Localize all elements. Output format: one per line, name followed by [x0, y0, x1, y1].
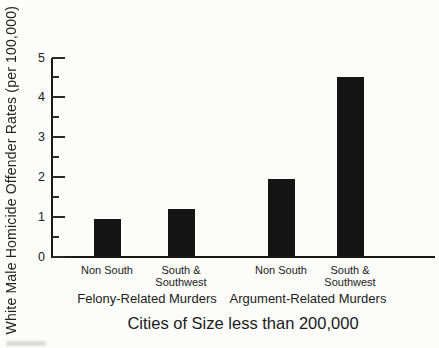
category-label: Non South [81, 264, 133, 276]
bar-chart-figure: White Male Homicide Offender Rates (per … [0, 0, 439, 348]
category-label: South & Southwest [155, 264, 206, 288]
bar [337, 77, 364, 256]
bar [94, 219, 121, 257]
y-axis-line [51, 58, 53, 258]
category-label: Non South [255, 264, 307, 276]
group-label: Felony-Related Murders [77, 291, 216, 306]
y-major-tick [52, 256, 65, 258]
y-minor-tick [52, 116, 59, 118]
y-tick-label: 1 [23, 211, 45, 223]
x-axis-title: Cities of Size less than 200,000 [127, 314, 358, 333]
y-minor-tick [52, 76, 59, 78]
y-major-tick [52, 96, 65, 98]
y-tick-label: 5 [23, 52, 45, 64]
y-tick-label: 3 [23, 131, 45, 143]
y-major-tick [52, 216, 65, 218]
y-major-tick [52, 57, 65, 59]
y-major-tick [52, 136, 65, 138]
category-label: South & Southwest [324, 264, 375, 288]
bar [168, 209, 195, 257]
y-axis-label: White Male Homicide Offender Rates (per … [3, 6, 19, 334]
y-tick-label: 2 [23, 171, 45, 183]
scan-smudge-artifact [6, 341, 46, 346]
y-tick-label: 0 [23, 251, 45, 263]
y-axis-label-container: White Male Homicide Offender Rates (per … [3, 0, 19, 340]
bar [268, 179, 295, 257]
y-major-tick [52, 176, 65, 178]
y-minor-tick [52, 236, 59, 238]
y-tick-label: 4 [23, 91, 45, 103]
group-label: Argument-Related Murders [230, 291, 387, 306]
y-minor-tick [52, 196, 59, 198]
y-minor-tick [52, 156, 59, 158]
